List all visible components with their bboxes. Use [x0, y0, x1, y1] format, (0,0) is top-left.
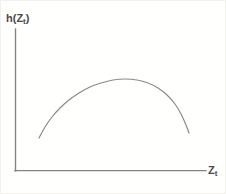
y-axis-label-base: h(Z [6, 12, 23, 24]
y-axis-label-subscript: t [23, 17, 26, 26]
x-axis-label-base: Z [208, 164, 215, 176]
concave-curve [39, 79, 189, 138]
x-axis-label: Zt [208, 165, 217, 176]
y-axis-label-paren: ) [26, 12, 30, 24]
y-axis-label: h(Zt) [6, 13, 29, 24]
figure-container: h(Zt) Zt [0, 0, 226, 194]
plot-canvas [1, 1, 226, 194]
